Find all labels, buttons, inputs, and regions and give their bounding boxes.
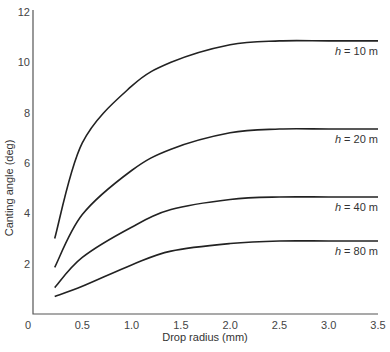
- series-label: h = 40 m: [335, 201, 378, 213]
- series-labels: h = 10 mh = 20 mh = 40 mh = 80 m: [335, 45, 378, 257]
- curve-20m: [55, 129, 378, 268]
- canting-angle-chart: 24681012 00.51.01.52.02.53.03.5 Drop rad…: [0, 0, 390, 352]
- curve-80m: [55, 241, 378, 297]
- y-tick-label: 8: [24, 107, 30, 119]
- x-tick-label: 1.0: [124, 319, 139, 331]
- x-tick-label: 2.0: [222, 319, 237, 331]
- x-tick-label: 2.5: [272, 319, 287, 331]
- x-tick-labels: 00.51.01.52.02.53.03.5: [25, 319, 386, 331]
- curve-40m: [55, 197, 378, 288]
- y-axis-title: Canting angle (deg): [3, 140, 15, 237]
- y-tick-label: 10: [18, 56, 30, 68]
- x-tick-label: 1.5: [173, 319, 188, 331]
- series-label: h = 20 m: [335, 133, 378, 145]
- y-tick-label: 6: [24, 157, 30, 169]
- x-tick-label: 3.0: [321, 319, 336, 331]
- y-tick-label: 2: [24, 258, 30, 270]
- curves: [55, 41, 378, 297]
- y-tick-label: 4: [24, 207, 30, 219]
- x-tick-label: 3.5: [370, 319, 385, 331]
- y-tick-label: 12: [18, 6, 30, 18]
- x-tick-label: 0.5: [75, 319, 90, 331]
- curve-10m: [55, 41, 378, 239]
- x-tick-label: 0: [25, 319, 31, 331]
- axes: [33, 10, 378, 314]
- y-tick-labels: 24681012: [18, 6, 30, 270]
- series-label: h = 10 m: [335, 45, 378, 57]
- series-label: h = 80 m: [335, 245, 378, 257]
- axis-lines: [33, 10, 378, 314]
- x-axis-title: Drop radius (mm): [162, 331, 248, 343]
